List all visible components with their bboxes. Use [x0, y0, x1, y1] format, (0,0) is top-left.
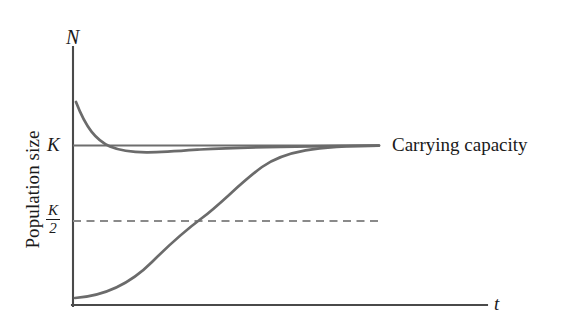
k-half-numerator: K [46, 203, 60, 220]
y-axis-title: Population size [23, 105, 42, 275]
x-axis-variable-label: t [494, 294, 499, 313]
carrying-capacity-annotation: Carrying capacity [392, 135, 528, 154]
k-half-denominator: 2 [46, 220, 60, 236]
logistic-growth-figure: Population size N t K K 2 Carrying capac… [0, 0, 561, 335]
plot-area [0, 0, 561, 335]
y-tick-label-k-half: K 2 [46, 203, 60, 236]
y-axis-variable-label: N [66, 27, 79, 47]
y-tick-label-k: K [47, 135, 60, 154]
